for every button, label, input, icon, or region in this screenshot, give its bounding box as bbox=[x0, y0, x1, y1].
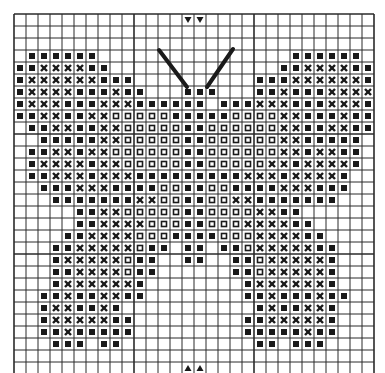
open-square-stitch bbox=[210, 162, 215, 167]
solid-square-stitch bbox=[77, 125, 83, 131]
open-square-stitch bbox=[138, 114, 143, 119]
solid-square-stitch bbox=[245, 101, 251, 107]
solid-square-stitch bbox=[137, 173, 143, 179]
solid-square-stitch bbox=[137, 101, 143, 107]
solid-square-stitch bbox=[29, 53, 35, 59]
cross-stitch bbox=[257, 281, 263, 287]
solid-square-stitch bbox=[113, 77, 119, 83]
solid-square-stitch bbox=[329, 185, 335, 191]
solid-square-stitch bbox=[101, 89, 107, 95]
solid-square-stitch bbox=[305, 197, 311, 203]
solid-square-stitch bbox=[185, 89, 191, 95]
open-square-stitch bbox=[126, 258, 131, 263]
open-square-stitch bbox=[246, 138, 251, 143]
open-square-stitch bbox=[138, 246, 143, 251]
solid-square-stitch bbox=[233, 101, 239, 107]
cross-stitch bbox=[53, 161, 59, 167]
solid-square-stitch bbox=[89, 197, 95, 203]
solid-square-stitch bbox=[341, 293, 347, 299]
solid-square-stitch bbox=[185, 161, 191, 167]
cross-stitch bbox=[305, 77, 311, 83]
cross-stitch bbox=[341, 125, 347, 131]
cross-stitch bbox=[101, 281, 107, 287]
cross-stitch bbox=[305, 185, 311, 191]
solid-square-stitch bbox=[281, 65, 287, 71]
cross-stitch bbox=[353, 89, 359, 95]
cross-stitch bbox=[269, 281, 275, 287]
solid-square-stitch bbox=[365, 101, 371, 107]
solid-square-stitch bbox=[53, 281, 59, 287]
solid-square-stitch bbox=[77, 221, 83, 227]
cross-stitch bbox=[77, 161, 83, 167]
solid-square-stitch bbox=[125, 329, 131, 335]
solid-square-stitch bbox=[197, 209, 203, 215]
solid-square-stitch bbox=[17, 113, 23, 119]
cross-stitch bbox=[329, 77, 335, 83]
cross-stitch bbox=[245, 173, 251, 179]
solid-square-stitch bbox=[173, 113, 179, 119]
cross-stitch bbox=[89, 149, 95, 155]
solid-square-stitch bbox=[185, 149, 191, 155]
solid-square-stitch bbox=[53, 245, 59, 251]
cross-stitch bbox=[317, 173, 323, 179]
solid-square-stitch bbox=[185, 137, 191, 143]
center-marker-up-icon bbox=[185, 365, 192, 371]
solid-square-stitch bbox=[89, 161, 95, 167]
solid-square-stitch bbox=[185, 113, 191, 119]
cross-stitch bbox=[65, 89, 71, 95]
solid-square-stitch bbox=[77, 101, 83, 107]
open-square-stitch bbox=[162, 162, 167, 167]
cross-stitch bbox=[41, 65, 47, 71]
solid-square-stitch bbox=[221, 101, 227, 107]
cross-stitch bbox=[317, 269, 323, 275]
solid-square-stitch bbox=[65, 233, 71, 239]
open-square-stitch bbox=[258, 150, 263, 155]
solid-square-stitch bbox=[89, 53, 95, 59]
solid-square-stitch bbox=[197, 137, 203, 143]
cross-stitch bbox=[113, 173, 119, 179]
cross-stitch bbox=[305, 245, 311, 251]
cross-stitch bbox=[293, 137, 299, 143]
cross-stitch bbox=[269, 305, 275, 311]
solid-square-stitch bbox=[89, 293, 95, 299]
solid-square-stitch bbox=[77, 233, 83, 239]
solid-square-stitch bbox=[197, 161, 203, 167]
open-square-stitch bbox=[174, 222, 179, 227]
solid-square-stitch bbox=[329, 137, 335, 143]
solid-square-stitch bbox=[365, 77, 371, 83]
cross-stitch bbox=[317, 161, 323, 167]
cross-stitch bbox=[305, 329, 311, 335]
solid-square-stitch bbox=[77, 89, 83, 95]
cross-stitch bbox=[293, 77, 299, 83]
solid-square-stitch bbox=[221, 113, 227, 119]
cross-stitch bbox=[149, 197, 155, 203]
open-square-stitch bbox=[126, 126, 131, 131]
antenna-line bbox=[207, 49, 233, 87]
cross-stitch bbox=[341, 65, 347, 71]
cross-stitch bbox=[89, 185, 95, 191]
center-marker-down-icon bbox=[185, 17, 192, 23]
solid-square-stitch bbox=[329, 317, 335, 323]
solid-square-stitch bbox=[305, 341, 311, 347]
solid-square-stitch bbox=[257, 89, 263, 95]
open-square-stitch bbox=[270, 114, 275, 119]
solid-square-stitch bbox=[245, 257, 251, 263]
open-square-stitch bbox=[174, 150, 179, 155]
cross-stitch bbox=[113, 293, 119, 299]
solid-square-stitch bbox=[281, 197, 287, 203]
solid-square-stitch bbox=[233, 173, 239, 179]
solid-square-stitch bbox=[269, 89, 275, 95]
cross-stitch bbox=[113, 209, 119, 215]
cross-stitch bbox=[293, 173, 299, 179]
cross-stitch bbox=[269, 317, 275, 323]
cross-stitch bbox=[101, 173, 107, 179]
open-square-stitch bbox=[138, 234, 143, 239]
solid-square-stitch bbox=[365, 113, 371, 119]
solid-square-stitch bbox=[53, 257, 59, 263]
cross-stitch bbox=[341, 89, 347, 95]
solid-square-stitch bbox=[113, 317, 119, 323]
open-square-stitch bbox=[150, 222, 155, 227]
cross-stitch bbox=[77, 245, 83, 251]
cross-stitch bbox=[317, 65, 323, 71]
solid-square-stitch bbox=[329, 113, 335, 119]
